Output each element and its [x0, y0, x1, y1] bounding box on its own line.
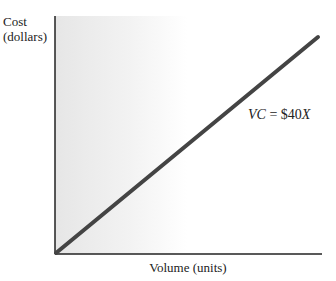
plot-shading	[55, 16, 275, 254]
eq-var: VC	[248, 107, 266, 122]
eq-var2: X	[302, 107, 311, 122]
chart-plot	[0, 0, 336, 281]
equation-label: VC = $40X	[248, 107, 310, 123]
y-axis-label-line2: (dollars)	[3, 29, 47, 44]
x-axis-label: Volume (units)	[0, 260, 336, 276]
y-axis-label-line1: Cost	[3, 14, 47, 29]
y-axis-label: Cost (dollars)	[3, 14, 47, 44]
eq-mid: = $40	[266, 107, 302, 122]
